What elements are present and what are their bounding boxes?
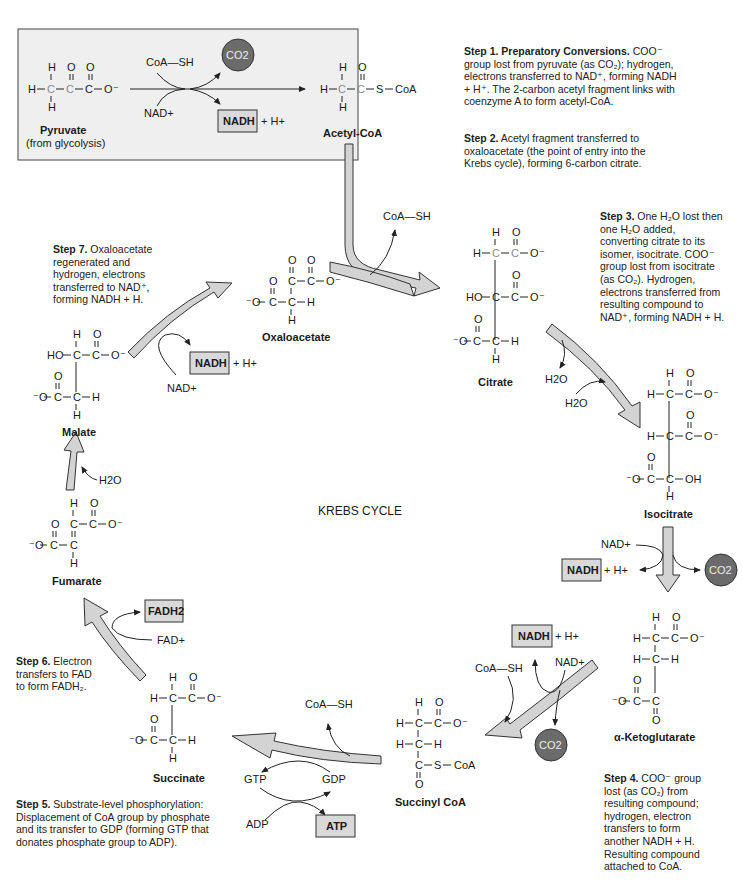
svg-text:H: H [307,296,315,308]
step3-co2-curve [673,555,700,570]
svg-text:C: C [511,247,519,259]
step6-h2o-label: H2O [99,474,122,486]
svg-text:C: C [511,291,519,303]
step3-co2-label: CO2 [709,564,732,576]
svg-text:O⁻: O⁻ [690,632,705,644]
svg-text:C: C [169,734,177,746]
step4-nad-label: NAD+ [555,656,585,668]
step7-nad-curve [159,334,190,375]
svg-text:CoA: CoA [454,759,476,771]
step-4-text: Step 4. COO⁻ group lost (as CO₂) from re… [604,772,714,873]
svg-text:C: C [89,518,97,530]
svg-text:C: C [473,335,481,347]
svg-text:H: H [320,83,328,95]
svg-text:CoA: CoA [395,83,417,95]
svg-text:C: C [288,296,296,308]
svg-text:OH: OH [685,473,702,485]
svg-text:H: H [339,61,347,73]
step2-coa-sh-label: CoA—SH [383,210,431,222]
step3-nadh-label: NADH [567,564,599,576]
step5-coa-sh-label: CoA—SH [305,698,353,710]
svg-text:H: H [473,247,481,259]
svg-text:C: C [188,692,196,704]
fad-label: FAD+ [157,634,185,646]
step-4-body: COO⁻ group lost (as CO₂) from resulting … [604,772,701,872]
svg-text:C: C [169,692,177,704]
svg-text:O⁻: O⁻ [108,518,123,530]
h2o-in-curve [576,381,605,394]
svg-text:C: C [652,632,660,644]
gdp-to-gtp-curve [262,761,330,772]
svg-text:C: C [92,349,100,361]
svg-text:O: O [288,254,297,266]
step-2-label: Step 2. [464,132,498,144]
svg-text:C: C [647,473,655,485]
svg-text:O: O [54,370,63,382]
svg-text:C: C [652,653,660,665]
succinate-structure: HO H C C O⁻ O ⁻O C C H H [129,671,222,764]
svg-text:O: O [90,497,99,509]
svg-text:H: H [150,692,158,704]
svg-text:H: H [666,490,674,502]
step3-h-plus-label: + H+ [604,564,628,576]
step4-coa-sh-label: CoA—SH [475,662,523,674]
svg-text:H: H [511,335,519,347]
citrate-structure: HO H C C O⁻ O HO C C O⁻ O ⁻O C C H H [453,226,545,365]
fumarate-label: Fumarate [52,575,102,587]
svg-text:H: H [671,653,679,665]
svg-text:O: O [67,61,76,73]
svg-text:O⁻: O⁻ [111,349,126,361]
prep-coa-sh-label: CoA—SH [146,56,194,68]
citrate-label: Citrate [478,376,513,388]
svg-text:H: H [652,611,660,623]
svg-text:O: O [672,611,681,623]
svg-text:HO: HO [47,349,64,361]
step4-coa-in-curve [505,676,513,722]
svg-text:O: O [512,269,521,281]
acetyl-coa-label: Acetyl-CoA [323,127,382,139]
isocitrate-to-akg-arrow [656,527,680,592]
svg-text:C: C [73,391,81,403]
svg-text:H: H [48,61,56,73]
svg-text:O⁻: O⁻ [530,291,545,303]
svg-text:H: H [70,557,78,569]
svg-text:O: O [358,61,367,73]
svg-text:C: C [47,83,55,95]
svg-text:C: C [288,275,296,287]
svg-text:O: O [647,451,656,463]
svg-text:O⁻: O⁻ [704,430,719,442]
svg-text:C: C [666,430,674,442]
svg-text:H: H [396,738,404,750]
svg-text:O: O [686,409,695,421]
svg-text:C: C [415,759,423,771]
svg-text:H: H [339,101,347,113]
svg-text:H: H [633,632,641,644]
step-6-label: Step 6. [16,655,50,667]
svg-text:H: H [492,226,500,238]
step6-h2o-in-curve [82,467,97,480]
svg-text:O⁻: O⁻ [207,692,222,704]
krebs-cycle-title: KREBS CYCLE [318,504,402,518]
fumarate-to-malate-arrow [64,432,84,490]
svg-text:C: C [70,518,78,530]
gtp-to-gdp-curve [260,788,330,801]
gdp-label: GDP [322,773,346,785]
svg-text:H: H [92,391,100,403]
svg-text:C: C [671,632,679,644]
svg-text:H: H [73,409,81,421]
svg-text:C: C [85,83,93,95]
svg-text:C: C [633,695,641,707]
svg-text:O: O [189,671,198,683]
alpha-ketoglutarate-structure: HO H C C O⁻ H C H O ⁻O C C O [612,611,705,726]
svg-text:O⁻: O⁻ [326,275,341,287]
svg-text:O: O [307,254,316,266]
step-1-text: Step 1. Preparatory Conversions. COO⁻ gr… [464,45,684,108]
svg-text:C: C [70,539,78,551]
svg-text:C: C [338,83,346,95]
svg-text:H: H [70,497,78,509]
svg-text:H: H [434,738,442,750]
svg-text:O⁻: O⁻ [453,717,468,729]
svg-text:O: O [633,674,642,686]
svg-text:C: C [492,291,500,303]
atp-label: ATP [326,820,347,832]
